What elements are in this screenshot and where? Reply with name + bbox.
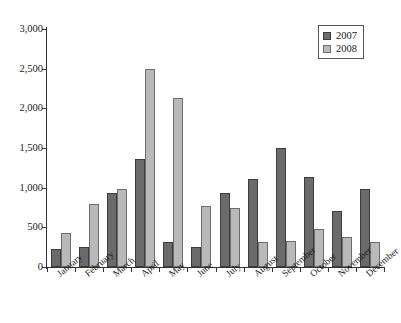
bar-group [332,29,352,267]
bar-2007-june[interactable] [191,247,201,267]
legend-item-2007[interactable]: 2007 [323,29,357,42]
x-tick-mark [244,267,245,272]
bar-group [191,29,211,267]
y-tick-label: 2,000 [19,101,43,114]
plot-area: 05001,0001,5002,0002,5003,000 [47,29,384,267]
bar-2008-may[interactable] [173,98,183,267]
bar-group [276,29,296,267]
bar-2008-march[interactable] [117,189,127,267]
bar-2007-august[interactable] [248,179,258,267]
legend-item-2008[interactable]: 2008 [323,42,357,55]
bar-group [79,29,99,267]
y-tick-label: 500 [27,220,43,233]
bar-group [220,29,240,267]
chart-legend: 20072008 [318,25,364,59]
x-tick-mark [47,267,48,272]
y-tick-label: 0 [38,260,43,273]
bar-group [107,29,127,267]
bar-2007-april[interactable] [135,159,145,267]
y-tick-label: 2,500 [19,62,43,75]
bar-group [135,29,155,267]
bar-2007-july[interactable] [220,193,230,267]
bar-group [51,29,71,267]
y-tick-label: 3,000 [19,22,43,35]
bar-2007-january[interactable] [51,249,61,267]
bar-2008-july[interactable] [230,208,240,267]
legend-swatch-icon [323,45,331,53]
legend-label: 2008 [336,42,357,55]
bar-group [304,29,324,267]
legend-swatch-icon [323,32,331,40]
legend-label: 2007 [336,29,357,42]
y-tick-label: 1,500 [19,141,43,154]
bar-2007-september[interactable] [276,148,286,267]
bar-2008-june[interactable] [201,206,211,267]
chart-title [0,0,396,2]
bar-2008-april[interactable] [145,69,155,267]
bar-group [360,29,380,267]
bar-group [163,29,183,267]
bar-group [248,29,268,267]
y-tick-label: 1,000 [19,181,43,194]
bar-2007-may[interactable] [163,242,173,267]
